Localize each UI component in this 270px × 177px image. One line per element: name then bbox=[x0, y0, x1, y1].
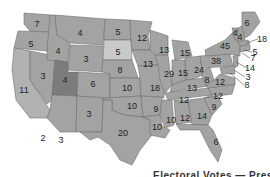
state-label-wi: 13 bbox=[159, 46, 169, 55]
state-label-ma: 18 bbox=[257, 35, 267, 44]
state-label-nd: 5 bbox=[115, 28, 120, 37]
state-label-la: 10 bbox=[152, 123, 162, 132]
state-label-mo: 18 bbox=[150, 84, 160, 93]
state-label-nh: 4 bbox=[237, 33, 242, 42]
state-label-co: 6 bbox=[90, 80, 95, 89]
state-de-md bbox=[220, 66, 235, 74]
state-az bbox=[47, 95, 77, 132]
state-label-md: 8 bbox=[244, 81, 249, 90]
state-label-ok: 10 bbox=[127, 102, 137, 111]
state-label-or: 5 bbox=[28, 40, 33, 49]
state-label-ks: 10 bbox=[122, 84, 132, 93]
state-label-ca-south: 2 bbox=[40, 134, 45, 143]
state-label-ca: 11 bbox=[19, 86, 28, 95]
state-label-sd: 5 bbox=[115, 48, 120, 57]
state-label-ms: 10 bbox=[166, 116, 176, 125]
state-label-ny: 45 bbox=[220, 42, 230, 51]
state-label-wa: 7 bbox=[34, 20, 39, 29]
state-label-al: 12 bbox=[180, 114, 190, 123]
state-label-mn: 12 bbox=[137, 34, 147, 43]
state-label-pa: 38 bbox=[211, 57, 221, 66]
state-label-va: 12 bbox=[215, 78, 225, 87]
state-label-nv: 3 bbox=[40, 72, 45, 81]
state-label-oh: 24 bbox=[194, 66, 204, 75]
state-label-wv: 8 bbox=[204, 76, 209, 85]
state-label-mt: 4 bbox=[77, 29, 82, 38]
state-label-ia: 13 bbox=[143, 60, 153, 69]
us-map bbox=[0, 0, 270, 177]
state-label-nm: 3 bbox=[86, 110, 91, 119]
state-label-id: 4 bbox=[55, 47, 60, 56]
state-label-nc: 12 bbox=[213, 92, 223, 101]
state-label-sc: 9 bbox=[211, 103, 216, 112]
state-label-in: 15 bbox=[178, 69, 188, 78]
state-ar bbox=[141, 96, 162, 117]
state-label-ky: 13 bbox=[187, 84, 197, 93]
state-label-mi: 15 bbox=[180, 49, 190, 58]
state-label-fl: 6 bbox=[213, 138, 218, 147]
state-label-az: 3 bbox=[58, 136, 63, 145]
state-label-tn: 12 bbox=[179, 96, 189, 105]
state-label-wy: 3 bbox=[83, 55, 88, 64]
state-label-ga: 14 bbox=[197, 112, 207, 121]
state-label-il: 29 bbox=[164, 70, 174, 79]
state-label-me: 6 bbox=[244, 19, 249, 28]
state-label-ct: 7 bbox=[250, 54, 255, 63]
state-label-tx: 20 bbox=[118, 129, 128, 138]
state-label-ne: 8 bbox=[117, 66, 122, 75]
state-label-ar: 9 bbox=[153, 105, 158, 114]
map-caption: Electoral Votes — Presidential bbox=[153, 170, 270, 177]
state-label-ut: 4 bbox=[62, 76, 67, 85]
